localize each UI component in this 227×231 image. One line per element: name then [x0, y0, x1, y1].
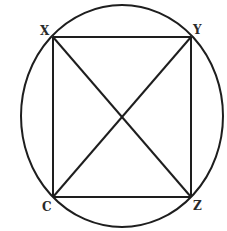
diagram-canvas: X Y C Z — [0, 0, 227, 231]
vertex-label-c: C — [42, 200, 52, 214]
vertex-label-y: Y — [192, 23, 202, 37]
vertex-label-x: X — [40, 24, 50, 38]
vertex-label-z: Z — [193, 199, 202, 213]
